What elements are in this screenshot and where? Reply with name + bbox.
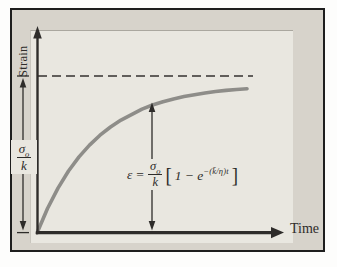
- left-range-up-arrowhead-icon: [20, 78, 27, 88]
- fraction-denominator: k: [21, 158, 27, 173]
- left-range-down-arrowhead-icon: [20, 221, 27, 231]
- equation-epsilon: ε: [127, 167, 132, 183]
- sigma-over-k-fraction: σo k: [17, 142, 32, 172]
- equation-fraction: σo k: [148, 160, 162, 189]
- equation-fraction-denominator: k: [152, 175, 158, 189]
- equation-body: 1 − e−(k̄/η)t: [175, 166, 229, 184]
- equation-fraction-numerator: σo: [148, 160, 162, 175]
- equation-close-bracket: ]: [232, 164, 238, 185]
- sigma-over-k-axis-label: σo k: [11, 140, 37, 174]
- equation-exponent: −(k̄/η)t: [203, 166, 229, 176]
- x-axis-label: Time: [290, 221, 319, 237]
- y-axis: [33, 26, 42, 234]
- x-axis: [36, 227, 284, 238]
- equation-equals: =: [135, 167, 145, 183]
- y-axis-arrowhead-icon: [33, 26, 42, 39]
- y-axis-label: Strain: [16, 45, 31, 77]
- equation-open-bracket: [: [165, 164, 171, 185]
- x-axis-arrowhead-icon: [271, 227, 284, 238]
- plot-graphics: [0, 0, 337, 267]
- strain-range-down-arrowhead-icon: [149, 221, 156, 231]
- creep-equation: ε = σo k [ 1 − e−(k̄/η)t ]: [123, 159, 242, 190]
- fraction-numerator: σo: [17, 142, 32, 158]
